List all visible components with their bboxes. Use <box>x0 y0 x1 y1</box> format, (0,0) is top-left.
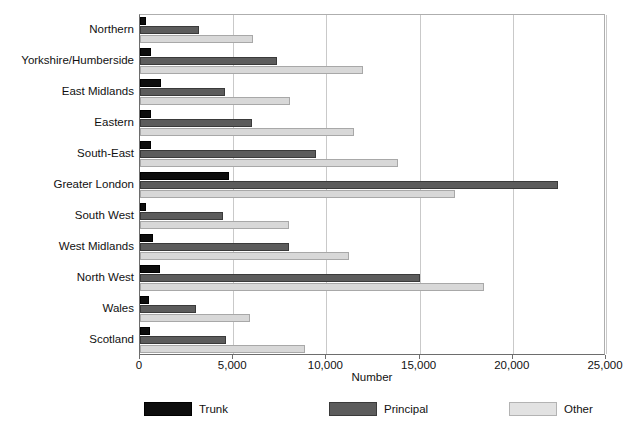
bar-principal <box>140 305 196 313</box>
bar-principal <box>140 150 316 158</box>
bar-trunk <box>140 172 229 180</box>
bar-groups <box>140 15 604 354</box>
legend-swatch-principal <box>329 402 377 416</box>
y-axis-category-labels: NorthernYorkshire/HumbersideEast Midland… <box>0 14 134 355</box>
bar-other <box>140 35 253 43</box>
bar-principal <box>140 119 252 127</box>
bar-principal <box>140 181 558 189</box>
bar-group <box>140 16 604 47</box>
bar-group <box>140 233 604 264</box>
bar-other <box>140 345 305 353</box>
bar-trunk <box>140 48 151 56</box>
bar-trunk <box>140 327 150 335</box>
bar-group <box>140 47 604 78</box>
bar-group <box>140 295 604 326</box>
bar-group <box>140 78 604 109</box>
bar-other <box>140 190 455 198</box>
bar-other <box>140 159 398 167</box>
plot-area <box>139 14 605 355</box>
y-axis-label: South-East <box>0 147 134 159</box>
legend-item-principal: Principal <box>329 402 428 416</box>
chart-legend: TrunkPrincipalOther <box>139 402 605 424</box>
bar-principal <box>140 26 199 34</box>
gridline <box>606 15 607 354</box>
y-axis-label: Northern <box>0 23 134 35</box>
bar-principal <box>140 274 420 282</box>
bar-principal <box>140 88 225 96</box>
bar-other <box>140 97 290 105</box>
bar-principal <box>140 212 223 220</box>
x-axis-title: Number <box>139 371 605 383</box>
legend-label: Other <box>564 403 593 416</box>
y-axis-label: Scotland <box>0 333 134 345</box>
bar-group <box>140 171 604 202</box>
bar-principal <box>140 57 277 65</box>
bar-trunk <box>140 141 151 149</box>
legend-label: Trunk <box>199 403 228 416</box>
bar-trunk <box>140 265 160 273</box>
bar-other <box>140 128 354 136</box>
bar-trunk <box>140 79 161 87</box>
legend-item-other: Other <box>509 402 593 416</box>
bar-principal <box>140 243 289 251</box>
bar-other <box>140 221 289 229</box>
bar-principal <box>140 336 226 344</box>
legend-label: Principal <box>384 403 428 416</box>
bar-group <box>140 326 604 357</box>
bar-other <box>140 314 250 322</box>
bar-other <box>140 66 363 74</box>
y-axis-label: North West <box>0 271 134 283</box>
y-axis-label: West Midlands <box>0 240 134 252</box>
legend-item-trunk: Trunk <box>144 402 228 416</box>
bar-group <box>140 109 604 140</box>
bar-trunk <box>140 203 146 211</box>
bar-chart: NorthernYorkshire/HumbersideEast Midland… <box>0 0 640 437</box>
y-axis-label: Wales <box>0 302 134 314</box>
y-axis-label: Eastern <box>0 116 134 128</box>
bar-trunk <box>140 110 151 118</box>
bar-trunk <box>140 234 153 242</box>
bar-trunk <box>140 17 146 25</box>
bar-other <box>140 283 484 291</box>
bar-trunk <box>140 296 149 304</box>
bar-group <box>140 264 604 295</box>
y-axis-label: East Midlands <box>0 85 134 97</box>
bar-other <box>140 252 349 260</box>
y-axis-label: Greater London <box>0 178 134 190</box>
bar-group <box>140 202 604 233</box>
legend-swatch-trunk <box>144 402 192 416</box>
y-axis-label: South West <box>0 209 134 221</box>
y-axis-label: Yorkshire/Humberside <box>0 54 134 66</box>
legend-swatch-other <box>509 402 557 416</box>
bar-group <box>140 140 604 171</box>
